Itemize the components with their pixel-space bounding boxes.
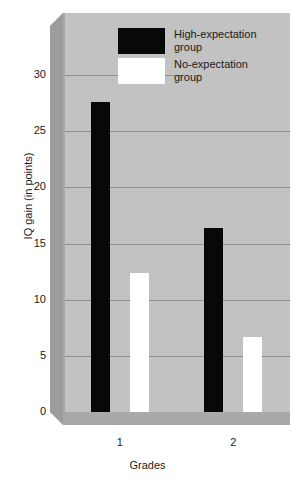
legend-item-no-expectation: No-expectation group bbox=[118, 58, 257, 84]
chart-legend: High-expectation group No-expectation gr… bbox=[118, 28, 257, 88]
x-axis-line bbox=[63, 412, 290, 425]
legend-label-line1: No-expectation bbox=[174, 58, 248, 70]
y-tick-0: 0 bbox=[6, 406, 46, 417]
legend-item-high-expectation: High-expectation group bbox=[118, 28, 257, 54]
bar-no-expectation-grade-1 bbox=[130, 273, 149, 412]
legend-label-high-expectation: High-expectation group bbox=[174, 28, 257, 54]
legend-label-no-expectation: No-expectation group bbox=[174, 58, 248, 84]
bar-no-expectation-grade-2 bbox=[243, 337, 262, 412]
black-swatch-icon bbox=[118, 28, 165, 54]
legend-label-line2: group bbox=[174, 41, 202, 53]
legend-label-line2: group bbox=[174, 71, 202, 83]
x-tick-2: 2 bbox=[213, 436, 253, 448]
bar-high-expectation-grade-1 bbox=[91, 102, 110, 412]
white-swatch-icon bbox=[118, 58, 165, 84]
legend-label-line1: High-expectation bbox=[174, 28, 257, 40]
x-tick-1: 1 bbox=[100, 436, 140, 448]
x-axis-title: Grades bbox=[0, 459, 295, 471]
y-tick-10: 10 bbox=[6, 294, 46, 305]
y-tick-5: 5 bbox=[6, 350, 46, 361]
bevel-left-face bbox=[50, 13, 63, 425]
y-axis-title: IQ gain (in points) bbox=[22, 116, 34, 276]
chart-figure: 051015202530 IQ gain (in points) 12 Grad… bbox=[0, 0, 295, 481]
y-tick-30: 30 bbox=[6, 69, 46, 80]
bar-high-expectation-grade-2 bbox=[204, 228, 223, 412]
